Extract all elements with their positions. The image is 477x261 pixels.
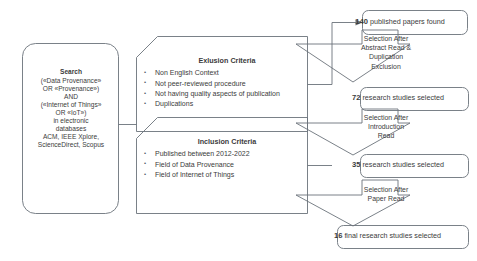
result-caption: published papers found [370,17,445,26]
exclusion-criteria-list: Non English Context Not peer-reviewed pr… [139,68,315,109]
list-item: Duplications [139,99,315,109]
exclusion-criteria-title: Exlusion Criteria [139,57,315,66]
list-item: Not peer-reviewed procedure [139,79,315,89]
step-line: Abstract Read & [333,43,439,52]
result-caption: research studies selected [362,160,444,169]
step-label-1: Selection After Abstract Read & Duplicat… [333,34,439,71]
result-count: 72 [352,93,360,102]
list-item: Published between 2012-2022 [139,149,315,159]
search-line: OR «IoT») [24,109,118,117]
search-line: OR «Provenance») [24,85,118,93]
step-line: Selection After [333,185,439,194]
result-label-72: 72 research studies selected [328,93,468,103]
search-heading: Search [24,68,118,76]
search-line: in electronic [24,117,118,125]
result-count: 16 [334,231,342,240]
result-count: 140 [355,17,368,26]
list-item: Field of Internet of Things [139,170,315,180]
step-line: Duplication [333,52,439,61]
step-line: Paper Read [333,194,439,203]
list-item: Field of Data Provenance [139,160,315,170]
step-line: Exclusion [333,62,439,71]
step-label-3: Selection After Paper Read [333,185,439,203]
step-label-2: Selection After Introduction Read [333,113,439,141]
search-line: («Data Provenance» [24,77,118,85]
search-line: databases [24,125,118,133]
result-label-140: 140 published papers found [330,17,470,27]
result-label-16: 16 final research studies selected [305,231,470,241]
search-line: («Internet of Things» [24,101,118,109]
result-count: 35 [352,160,360,169]
step-line: Read [333,131,439,140]
inclusion-criteria-text: Inclusion Criteria Published between 201… [139,138,315,180]
result-caption: final research studies selected [344,231,441,240]
inclusion-criteria-list: Published between 2012-2022 Field of Dat… [139,149,315,180]
step-line: Introduction [333,122,439,131]
list-item: Not having quality aspects of publicatio… [139,89,315,99]
search-line: AND [24,93,118,101]
search-box-text: Search («Data Provenance» OR «Provenance… [24,68,118,149]
result-caption: research studies selected [362,93,444,102]
exclusion-criteria-text: Exlusion Criteria Non English Context No… [139,57,315,110]
step-line: Selection After [333,34,439,43]
step-line: Selection After [333,113,439,122]
search-line: ScienceDirect, Scopus [24,141,118,149]
inclusion-criteria-title: Inclusion Criteria [139,138,315,147]
search-line: ACM, IEEE Xplore, [24,133,118,141]
flowchart-diagram: Search («Data Provenance» OR «Provenance… [0,0,477,261]
result-label-35: 35 research studies selected [328,160,468,170]
list-item: Non English Context [139,68,315,78]
